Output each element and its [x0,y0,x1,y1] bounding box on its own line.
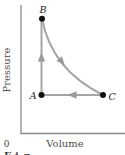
pv-diagram: B A C Pressure Volume 0 Fig. [0,0,125,155]
point-b-dot [39,16,45,22]
arrow-up-icon [38,53,45,62]
point-a-label: A [29,90,37,101]
point-a-dot [39,92,45,98]
edge-b-to-c [42,19,103,95]
arrow-left-icon [68,91,77,98]
caption-text: Fig. [4,151,64,155]
point-b-label: B [39,4,47,15]
pv-diagram-canvas: B A C Pressure Volume 0 [0,0,125,155]
origin-label: 0 [4,139,10,149]
caption-fragment: Fig. [4,151,64,155]
point-c-label: C [109,91,117,102]
x-axis-label: Volume [45,138,83,149]
y-axis-label: Pressure [1,48,12,93]
point-c-dot [100,92,106,98]
